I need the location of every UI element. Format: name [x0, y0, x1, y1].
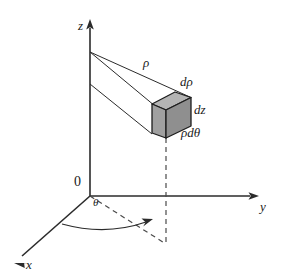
rho-ray-lower: [90, 84, 152, 134]
origin-label: 0: [74, 175, 81, 189]
diagram-canvas: [0, 0, 282, 280]
cylindrical-coordinates-diagram: z y x 0 θ ρ dρ dz ρdθ: [0, 0, 282, 280]
projection-group: [90, 138, 166, 244]
z-axis-label: z: [78, 19, 83, 32]
x-axis-label: x: [26, 258, 32, 271]
theta-angle-group: [62, 219, 153, 230]
cube-front-face: [152, 104, 166, 138]
theta-label: θ: [93, 197, 98, 208]
d-rho-label: dρ: [180, 75, 193, 88]
theta-arc: [62, 222, 146, 230]
rho-ray-upper-right: [90, 52, 191, 98]
dz-label: dz: [194, 103, 206, 116]
y-axis-arrowhead: [249, 192, 260, 200]
x-axis-line: [22, 196, 90, 256]
y-axis-label: y: [260, 200, 266, 213]
z-axis-arrowhead: [86, 19, 94, 30]
dashed-radial-projection: [90, 196, 166, 244]
rho-label: ρ: [143, 56, 149, 69]
axis-group: [14, 19, 259, 270]
rho-d-theta-label: ρdθ: [181, 126, 200, 139]
